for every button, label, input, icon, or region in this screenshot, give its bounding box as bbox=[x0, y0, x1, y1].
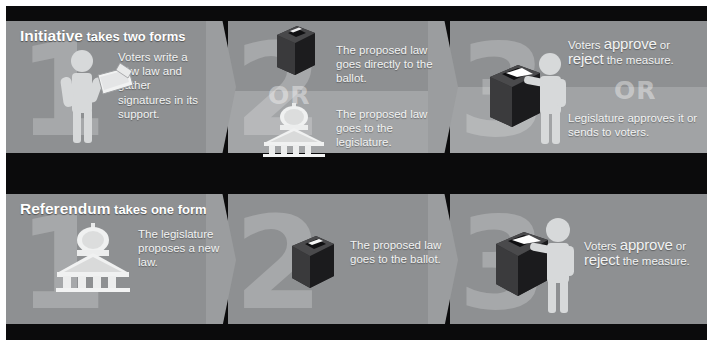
initiative-step-3-legislature-text: Legislature approves it or sends to vote… bbox=[568, 111, 707, 139]
initiative-heading-strong: Initiative bbox=[20, 27, 83, 44]
ref-vote-text-tail: the measure. bbox=[619, 255, 689, 267]
referendum-heading-strong: Referendum bbox=[20, 200, 110, 217]
section-referendum: 1 2 3 Referendum takes one form bbox=[6, 194, 707, 326]
person-writing-petition-icon bbox=[54, 47, 134, 149]
initiative-heading: Initiative takes two forms bbox=[20, 27, 185, 45]
referendum-step-3-text: Voters approve or reject the measure. bbox=[584, 238, 707, 268]
referendum-step-1-text: The legislature proposes a new law. bbox=[138, 227, 224, 270]
referendum-heading-rest: takes one form bbox=[110, 202, 206, 217]
referendum-heading: Referendum takes one form bbox=[20, 200, 207, 218]
vote-text-lead: Voters bbox=[568, 39, 604, 51]
initiative-step-3-or-label: OR bbox=[614, 76, 657, 105]
voter-casting-ballot-icon bbox=[484, 51, 580, 149]
referendum-step-2-text: The proposed law goes to the ballot. bbox=[350, 238, 454, 266]
section-initiative: 1 2 3 Initiative takes two forms bbox=[6, 21, 707, 153]
initiative-step-3-vote-text: Voters approve or reject the measure. bbox=[568, 37, 707, 67]
vote-text-tail: the measure. bbox=[603, 54, 673, 66]
ballot-box-icon bbox=[269, 21, 319, 83]
initiative-heading-rest: takes two forms bbox=[83, 29, 186, 44]
initiative-step-2-legislature-text: The proposed law goes to the legislature… bbox=[336, 107, 436, 150]
initiative-referendum-infographic: 1 2 3 Initiative takes two forms bbox=[0, 0, 713, 346]
vote-text-mid: or bbox=[657, 39, 670, 51]
capitol-building-icon-referendum bbox=[52, 222, 134, 298]
bottom-black-strip bbox=[6, 324, 707, 340]
ref-vote-text-approve: approve bbox=[620, 236, 673, 253]
infographic-board: 1 2 3 Initiative takes two forms bbox=[6, 6, 707, 340]
voter-casting-ballot-icon-referendum bbox=[490, 216, 590, 318]
initiative-step-2-ballot-text: The proposed law goes directly to the ba… bbox=[336, 43, 436, 86]
ref-vote-text-mid: or bbox=[673, 240, 686, 252]
vote-text-approve: approve bbox=[604, 35, 657, 52]
capitol-building-icon bbox=[258, 101, 330, 161]
ballot-box-icon-referendum bbox=[284, 230, 340, 296]
